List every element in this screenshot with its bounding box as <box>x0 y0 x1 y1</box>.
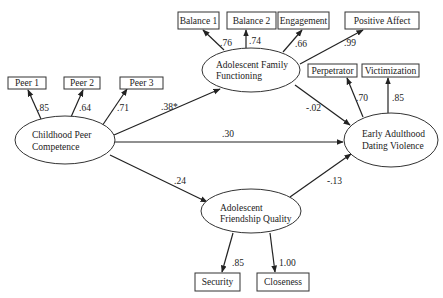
construct-label-line2: Dating Violence <box>362 141 424 151</box>
construct-label-line2: Competence <box>32 142 79 152</box>
indicator-label: Engagement <box>280 16 328 26</box>
indicator-label: Positive Affect <box>354 16 411 26</box>
indicator-balance1: Balance 1 <box>178 12 219 29</box>
indicator-label: Balance 2 <box>233 16 271 26</box>
path-family-to-dating <box>295 85 350 125</box>
construct-label-line1: Adolescent <box>220 203 263 213</box>
indicator-perpetrator: Perpetrator <box>308 64 357 77</box>
loading-peer1: .85 <box>37 103 49 113</box>
sem-diagram: Peer 1 Peer 2 Peer 3 Balance 1 Balance 2… <box>0 0 443 298</box>
construct-label-line2: Friendship Quality <box>220 214 292 224</box>
path-coef-peer-to-family: .38* <box>161 102 178 112</box>
loading-victimization: .85 <box>392 93 404 103</box>
indicator-label: Peer 2 <box>70 78 94 88</box>
loading-peer3: .71 <box>117 103 129 113</box>
loading-balance2: .74 <box>249 36 261 46</box>
construct-adolescent-family-functioning: Adolescent Family Functioning <box>202 48 300 92</box>
indicator-engagement: Engagement <box>278 12 329 29</box>
loading-peer2: .64 <box>79 103 91 113</box>
path-peer-to-friendship <box>110 155 207 202</box>
indicator-balance2: Balance 2 <box>227 12 276 29</box>
loading-security: .85 <box>232 258 244 268</box>
indicator-label: Perpetrator <box>311 66 354 76</box>
indicator-closeness: Closeness <box>257 273 309 291</box>
indicator-label: Peer 3 <box>129 78 153 88</box>
path-coef-peer-to-friendship: .24 <box>174 176 186 186</box>
loading-perpetrator: .70 <box>356 93 368 103</box>
indicator-peer1: Peer 1 <box>8 77 46 89</box>
indicator-label: Balance 1 <box>180 16 218 26</box>
construct-label-line1: Adolescent Family <box>216 60 288 70</box>
indicator-label: Closeness <box>264 277 302 287</box>
indicator-label: Security <box>202 277 234 287</box>
indicator-positive-affect: Positive Affect <box>345 12 419 29</box>
indicator-security: Security <box>195 273 240 291</box>
path-coef-family-to-dating: -.02 <box>306 103 321 113</box>
indicator-victimization: Victimization <box>362 64 419 77</box>
construct-childhood-peer-competence: Childhood Peer Competence <box>15 116 115 164</box>
loading-closeness: 1.00 <box>279 258 296 268</box>
edge-closeness <box>270 233 275 272</box>
indicator-peer3: Peer 3 <box>120 77 163 89</box>
path-coef-friendship-to-dating: -.13 <box>327 176 342 186</box>
loading-balance1: .76 <box>220 38 232 48</box>
path-peer-to-family <box>114 89 220 135</box>
path-coef-peer-to-dating: .30 <box>222 129 234 139</box>
indicator-peer2: Peer 2 <box>64 77 100 89</box>
construct-adolescent-friendship-quality: Adolescent Friendship Quality <box>201 189 301 233</box>
construct-label-line1: Early Adulthood <box>362 129 425 139</box>
construct-early-adulthood-dating-violence: Early Adulthood Dating Violence <box>344 113 438 167</box>
loading-engagement: .66 <box>295 39 307 49</box>
construct-label-line2: Functioning <box>216 71 262 81</box>
construct-label-line1: Childhood Peer <box>32 130 92 140</box>
indicator-label: Victimization <box>365 66 417 76</box>
loading-positive-affect: .99 <box>344 38 356 48</box>
indicator-label: Peer 1 <box>15 78 39 88</box>
